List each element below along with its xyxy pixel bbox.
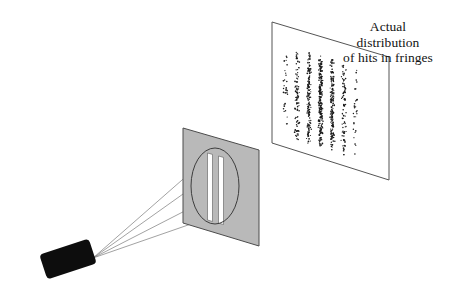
fringe-dot <box>344 100 345 101</box>
fringe-dot <box>356 70 357 71</box>
fringe-dot <box>342 78 343 79</box>
fringe-dot <box>321 132 323 134</box>
fringe-dot <box>310 140 311 141</box>
fringe-dot <box>354 103 356 105</box>
fringe-dot <box>345 126 346 127</box>
fringe-dot <box>330 122 331 123</box>
fringe-dot <box>344 98 346 100</box>
fringe-dot <box>320 55 321 56</box>
fringe-dot <box>332 95 334 97</box>
fringe-dot <box>333 90 334 91</box>
fringe-dot <box>322 80 324 82</box>
fringe-dot <box>318 79 320 81</box>
fringe-dot <box>343 145 345 147</box>
fringe-dot <box>321 110 322 111</box>
fringe-dot <box>353 113 354 114</box>
fringe-dot <box>308 83 310 85</box>
fringe-dot <box>285 110 286 111</box>
caption-line-1: Actual <box>330 19 446 35</box>
fringe-dot <box>355 72 357 74</box>
fringe-dot <box>295 129 296 130</box>
fringe-dot <box>320 61 322 63</box>
fringe-dot <box>286 81 288 83</box>
fringe-dot <box>355 145 356 146</box>
fringe-dot <box>330 87 331 88</box>
fringe-dot <box>295 73 297 75</box>
fringe-dot <box>297 135 298 136</box>
fringe-dot <box>286 123 288 125</box>
fringe-dot <box>331 144 333 146</box>
fringe-dot <box>298 88 299 89</box>
fringe-dot <box>298 110 300 112</box>
fringe-dot <box>332 78 334 80</box>
fringe-dot <box>343 132 345 134</box>
fringe-dot <box>330 117 332 119</box>
fringe-dot <box>332 119 333 120</box>
fringe-dot <box>309 117 310 118</box>
fringe-dot <box>331 106 332 107</box>
fringe-dot <box>298 122 300 124</box>
fringe-dot <box>345 69 346 70</box>
fringe-dot <box>332 140 334 142</box>
fringe-dot <box>330 119 331 120</box>
fringe-dot <box>318 91 320 93</box>
fringe-dot <box>309 81 311 83</box>
fringe-dot <box>331 88 333 90</box>
fringe-dot <box>332 132 334 134</box>
fringe-dot <box>330 78 332 80</box>
fringe-dot <box>309 125 310 126</box>
fringe-dot <box>297 53 298 54</box>
fringe-dot <box>286 60 287 61</box>
fringe-dot <box>340 140 341 141</box>
fringe-dot <box>298 86 300 88</box>
fringe-dot <box>343 123 344 124</box>
fringe-dot <box>297 91 299 93</box>
fringe-dot <box>295 117 296 118</box>
fringe-dot <box>320 77 321 78</box>
fringe-dot <box>297 103 298 104</box>
double-slit-figure: Actual distribution of hits in fringes <box>0 0 449 308</box>
fringe-dot <box>308 114 310 116</box>
fringe-dot <box>333 134 334 135</box>
fringe-dot <box>319 109 321 111</box>
fringe-dot <box>320 66 322 68</box>
fringe-dot <box>308 120 309 121</box>
slit-right <box>219 156 224 225</box>
fringe-dot <box>342 145 343 146</box>
fringe-dot <box>330 76 331 77</box>
fringe-dot <box>297 95 298 96</box>
fringe-dot <box>341 76 342 77</box>
fringe-dot <box>353 129 354 130</box>
fringe-dot <box>307 98 308 99</box>
fringe-dot <box>354 143 356 145</box>
fringe-dot <box>308 78 310 80</box>
fringe-dot <box>331 130 333 132</box>
fringe-dot <box>309 65 311 67</box>
fringe-dot <box>287 93 288 94</box>
fringe-dot <box>322 123 323 124</box>
fringe-dot <box>308 132 310 134</box>
fringe-dot <box>343 75 344 76</box>
fringe-dot <box>320 69 321 70</box>
fringe-dot <box>285 92 286 93</box>
fringe-dot <box>320 119 321 120</box>
fringe-dot <box>332 113 333 114</box>
fringe-dot <box>296 130 298 132</box>
fringe-dot <box>283 88 284 89</box>
fringe-dot <box>332 108 333 109</box>
fringe-dot <box>297 72 298 73</box>
fringe-dot <box>296 138 298 140</box>
fringe-dot <box>320 99 321 100</box>
fringe-dot <box>309 72 311 74</box>
fringe-dot <box>307 123 309 125</box>
fringe-dot <box>332 123 334 125</box>
fringe-dot <box>286 92 288 94</box>
fringe-dot <box>319 103 321 105</box>
fringe-dot <box>307 111 308 112</box>
fringe-dot <box>318 59 320 61</box>
fringe-dot <box>310 120 311 121</box>
fringe-dot <box>309 126 310 127</box>
fringe-dot <box>333 98 334 99</box>
fringe-dot <box>341 98 342 99</box>
fringe-dot <box>307 69 309 71</box>
